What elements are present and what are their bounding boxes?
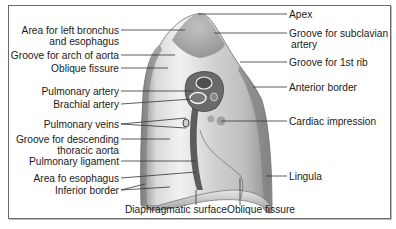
label-area-esophagus: Area fo esophagus — [33, 173, 119, 184]
label-area-left-bronchus: Area for left bronchus and esophagus — [22, 25, 119, 47]
pulmonary-vein-vessel — [183, 119, 189, 127]
label-groove-arch-aorta: Groove for arch of aorta — [11, 50, 119, 61]
label-oblique-fissure-lower: Oblique fissure — [227, 204, 295, 215]
label-brachial-artery: Brachial artery — [53, 99, 119, 110]
label-groove-1st-rib: Groove for 1st rib — [289, 57, 368, 68]
label-line: Groove for descending — [16, 134, 119, 145]
label-lingula: Lingula — [289, 171, 322, 182]
label-inferior-border: Inferior border — [55, 185, 119, 196]
label-apex: Apex — [289, 9, 312, 20]
label-pulmonary-ligament: Pulmonary ligament — [29, 156, 119, 167]
label-line: thoracic aorta — [16, 145, 119, 156]
label-oblique-fissure-upper: Oblique fissure — [51, 63, 119, 74]
label-pulmonary-artery: Pulmonary artery — [41, 86, 119, 97]
label-line: Area for left bronchus — [22, 25, 119, 36]
label-line: and esophagus — [22, 36, 119, 47]
label-groove-subclavian: Groove for subclavian artery — [289, 28, 388, 50]
pulmonary-artery-vessel — [196, 77, 212, 89]
label-anterior-border: Anterior border — [289, 82, 357, 93]
bronchus-vessel — [190, 93, 206, 104]
small-vessel — [211, 93, 218, 101]
label-diaphragmatic-surface: Diaphragmatic surface — [125, 204, 227, 215]
label-groove-descending-aorta: Groove for descending thoracic aorta — [16, 134, 119, 156]
label-cardiac-impression: Cardiac impression — [289, 116, 376, 127]
label-line: Groove for subclavian — [289, 28, 388, 39]
cardiac-dot-1 — [208, 116, 215, 123]
label-pulmonary-veins: Pulmonary veins — [44, 119, 119, 130]
label-line: artery — [289, 39, 388, 50]
